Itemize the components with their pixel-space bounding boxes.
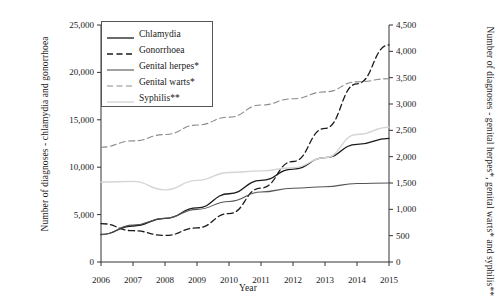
y-axis-right-tick: 1,500 [396,178,416,188]
x-axis-tick: 2013 [316,275,334,285]
legend-label: Chlamydia [139,29,181,39]
legend-item: Genital herpes* [107,58,199,74]
x-axis-tick: 2007 [124,275,142,285]
legend-item: Syphilis** [107,90,180,106]
legend-item: Chlamydia [107,26,181,42]
x-axis-tick: 2012 [284,275,302,285]
legend-swatch-icon [107,45,134,55]
legend-swatch-icon [107,93,134,103]
series-line [101,127,389,190]
chart-figure: Number of diagnoses - chlamydia and gono… [0,0,496,305]
legend-label: Gonorrhoea [139,45,184,55]
legend-label: Genital herpes* [139,61,199,71]
legend-label: Genital warts* [139,77,195,87]
legend-item: Genital warts* [107,74,195,90]
y-axis-right-tick: 2,000 [396,152,416,162]
y-axis-left-title: Number of diagnoses - chlamydia and gono… [39,29,51,239]
series-line [101,138,389,234]
y-axis-right-title: Number of diagnoses - genital herpes*, g… [484,27,496,242]
y-axis-left-tick: 10,000 [30,162,94,172]
y-axis-right-tick: 0 [396,257,401,267]
legend-swatch-icon [107,29,134,39]
y-axis-left-tick: 15,000 [30,115,94,125]
y-axis-right-tick: 1,000 [396,204,416,214]
x-axis-tick: 2008 [156,275,174,285]
x-axis-tick: 2006 [92,275,110,285]
x-axis-tick: 2010 [220,275,238,285]
y-axis-right-tick: 4,500 [396,20,416,30]
legend-label: Syphilis** [139,93,180,103]
y-axis-right-tick: 3,500 [396,73,416,83]
x-axis-tick: 2009 [188,275,206,285]
y-axis-left-tick: 25,000 [30,20,94,30]
x-axis-title: Year [0,283,496,293]
x-axis-tick: 2014 [348,275,366,285]
x-axis-tick: 2011 [252,275,270,285]
y-axis-left-tick: 20,000 [30,67,94,77]
legend-item: Gonorrhoea [107,42,184,58]
y-axis-right-tick: 4,000 [396,46,416,56]
y-axis-left-tick: 5,000 [30,210,94,220]
series-line [101,183,389,235]
legend-swatch-icon [107,77,134,87]
y-axis-right-tick: 2,500 [396,125,416,135]
y-axis-right-tick: 500 [396,231,410,241]
y-axis-left-tick: 0 [30,257,94,267]
x-axis-tick: 2015 [380,275,398,285]
legend-swatch-icon [107,61,134,71]
y-axis-right-tick: 3,000 [396,99,416,109]
chart-legend: ChlamydiaGonorrhoeaGenital herpes*Genita… [101,21,213,107]
